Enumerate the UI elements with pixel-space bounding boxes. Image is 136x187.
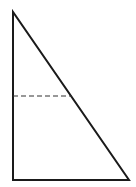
triangle-diagram xyxy=(0,0,136,187)
